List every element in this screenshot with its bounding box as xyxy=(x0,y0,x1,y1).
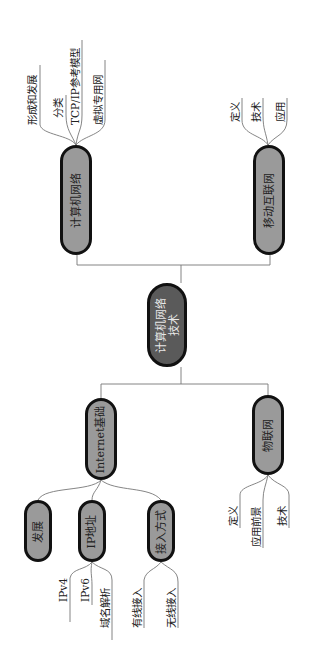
node-internet-basics[interactable]: Internet基础 xyxy=(85,398,117,480)
node-ip-address[interactable]: IP地址 xyxy=(78,500,106,562)
leaf-ipv6[interactable]: IPv6 xyxy=(79,578,91,602)
leaf-mobile-definition[interactable]: 定义 xyxy=(229,102,241,122)
root-label: 计算机网络技术 xyxy=(154,298,180,353)
leaf-iot-technology[interactable]: 技术 xyxy=(276,506,288,526)
node-computer-network[interactable]: 计算机网络 xyxy=(60,145,92,255)
node-mobile-internet[interactable]: 移动互联网 xyxy=(253,145,285,255)
leaf-wireless-access[interactable]: 无线接入 xyxy=(165,588,177,628)
leaf-mobile-application[interactable]: 应用 xyxy=(274,102,286,122)
node-iot[interactable]: 物联网 xyxy=(252,395,284,475)
leaf-mobile-technology[interactable]: 技术 xyxy=(250,102,262,122)
leaf-classification[interactable]: 分类 xyxy=(52,98,64,118)
leaf-vpn[interactable]: 虚拟专用网 xyxy=(92,75,104,125)
node-development[interactable]: 发展 xyxy=(24,500,52,562)
root-node[interactable]: 计算机网络技术 xyxy=(147,283,187,367)
leaf-ipv4[interactable]: IPv4 xyxy=(57,578,69,602)
leaf-tcpip-model[interactable]: TCP/IP参考模型 xyxy=(69,48,81,125)
leaf-formation[interactable]: 形成和发展 xyxy=(26,75,38,125)
leaf-iot-prospects[interactable]: 应用前景 xyxy=(250,507,262,547)
leaf-iot-definition[interactable]: 定义 xyxy=(227,506,239,526)
leaf-dns[interactable]: 域名解析 xyxy=(99,588,111,628)
node-access-method[interactable]: 接入方式 xyxy=(147,500,175,562)
leaf-wired-access[interactable]: 有线接入 xyxy=(131,588,143,628)
